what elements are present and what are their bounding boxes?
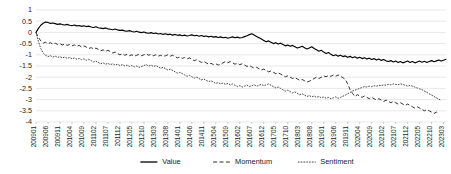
series-line-value bbox=[36, 22, 446, 63]
x-tick-label: 201705 bbox=[270, 126, 277, 148]
line-chart: 10.50-0.5-1-1.5-2-2.5-3-3.5-4 2009012009… bbox=[0, 0, 451, 174]
x-tick-label: 202102 bbox=[378, 126, 385, 148]
x-tick-label: 202210 bbox=[426, 126, 433, 148]
x-tick-label: 201509 bbox=[222, 126, 229, 148]
x-tick-label: 201911 bbox=[342, 126, 349, 147]
x-tick-label: 201102 bbox=[90, 126, 97, 147]
x-tick-label: 201411 bbox=[198, 126, 205, 147]
y-tick-label: -2.5 bbox=[20, 84, 32, 93]
y-tick-label: -4 bbox=[26, 117, 32, 126]
y-tick-label: 0 bbox=[28, 28, 32, 37]
x-tick-label: 201803 bbox=[294, 126, 301, 148]
y-tick-label: -0.5 bbox=[20, 39, 32, 48]
series-line-momentum bbox=[36, 32, 439, 113]
x-tick-label: 202009 bbox=[366, 126, 373, 148]
x-tick-label: 200901 bbox=[30, 126, 37, 148]
x-tick-label: 201004 bbox=[66, 126, 73, 148]
y-tick-label: -1.5 bbox=[20, 61, 32, 70]
x-axis-tick-labels: 2009012009062009112010042010092011022011… bbox=[30, 122, 445, 147]
x-tick-label: 202112 bbox=[402, 126, 409, 147]
legend-label-sentiment: Sentiment bbox=[320, 157, 353, 166]
x-tick-label: 201406 bbox=[186, 126, 193, 148]
y-tick-label: -2 bbox=[26, 73, 32, 82]
x-tick-label: 201112 bbox=[114, 126, 121, 147]
x-tick-label: 201009 bbox=[78, 126, 85, 148]
x-tick-label: 200911 bbox=[54, 126, 61, 147]
chart-canvas: 10.50-0.5-1-1.5-2-2.5-3-3.5-4 2009012009… bbox=[0, 0, 451, 174]
x-tick-label: 202107 bbox=[390, 126, 397, 148]
x-tick-label: 201602 bbox=[234, 126, 241, 148]
y-tick-label: 0.5 bbox=[22, 17, 32, 26]
y-tick-label: -3 bbox=[26, 95, 32, 104]
series-line-sentiment bbox=[36, 32, 441, 100]
x-tick-label: 201308 bbox=[162, 126, 169, 148]
x-tick-label: 201901 bbox=[318, 126, 325, 148]
x-tick-label: 201303 bbox=[150, 126, 157, 148]
y-tick-label: -1 bbox=[26, 50, 32, 59]
x-tick-label: 201205 bbox=[126, 126, 133, 148]
x-tick-label: 200906 bbox=[42, 126, 49, 148]
chart-legend: ValueMomentumSentiment bbox=[140, 157, 353, 166]
x-tick-label: 201906 bbox=[330, 126, 337, 148]
legend-label-momentum: Momentum bbox=[235, 157, 272, 166]
x-tick-label: 201107 bbox=[102, 126, 109, 147]
x-tick-label: 202004 bbox=[354, 126, 361, 148]
x-tick-label: 202303 bbox=[438, 126, 445, 148]
x-tick-label: 201710 bbox=[282, 126, 289, 148]
y-tick-label: 1 bbox=[28, 5, 32, 14]
x-tick-label: 201504 bbox=[210, 126, 217, 148]
x-tick-label: 201612 bbox=[258, 126, 265, 148]
x-tick-label: 201401 bbox=[174, 126, 181, 148]
x-tick-label: 201607 bbox=[246, 126, 253, 148]
x-tick-label: 201808 bbox=[306, 126, 313, 148]
y-axis-tick-labels: 10.50-0.5-1-1.5-2-2.5-3-3.5-4 bbox=[20, 5, 32, 126]
x-tick-label: 201210 bbox=[138, 126, 145, 148]
x-tick-label: 202205 bbox=[414, 126, 421, 148]
y-tick-label: -3.5 bbox=[20, 106, 32, 115]
legend-label-value: Value bbox=[162, 157, 180, 166]
